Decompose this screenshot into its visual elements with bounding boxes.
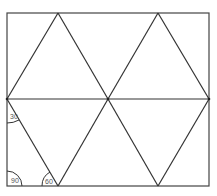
edge-lower-3: [108, 99, 158, 186]
vertex-left-mid: [6, 98, 9, 101]
edge-upper-2: [58, 13, 108, 99]
edge-upper-3: [108, 13, 158, 99]
tessellation-diagram: 30 90 60: [0, 0, 217, 196]
vertex-right-mid: [208, 98, 211, 101]
edge-lower-2: [58, 99, 108, 186]
angle-label-90: 90: [11, 177, 19, 184]
angle-label-30: 30: [10, 113, 18, 120]
edge-upper-1: [7, 13, 58, 99]
edge-lower-4: [158, 99, 209, 186]
vertex-center: [107, 98, 110, 101]
angle-arc-30: [7, 120, 19, 123]
edge-upper-4: [158, 13, 209, 99]
angle-label-60: 60: [45, 178, 53, 185]
